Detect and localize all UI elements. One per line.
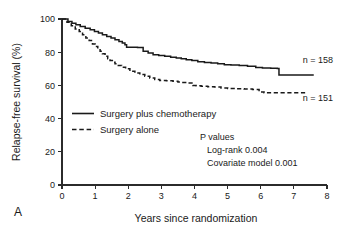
x-axis-ticks: 012345678 — [59, 185, 329, 201]
x-tick-label-6: 6 — [258, 191, 263, 201]
p-value-log-rank: Log-rank 0.004 — [207, 145, 268, 155]
sample-size-annotations: n = 158 n = 151 — [303, 55, 333, 103]
legend-label-surgery-alone: Surgery alone — [100, 124, 159, 135]
x-tick-label-1: 1 — [93, 191, 98, 201]
curve-surgery-alone — [62, 19, 307, 93]
p-values-annotation: P values Log-rank 0.004 Covariate model … — [200, 132, 298, 168]
legend-label-surgery-plus-chemotherapy: Surgery plus chemotherapy — [100, 108, 216, 119]
panel-label: A — [14, 205, 22, 219]
p-value-covariate-model: Covariate model 0.001 — [207, 158, 298, 168]
x-tick-label-5: 5 — [225, 191, 230, 201]
x-axis-title: Years since randomization — [135, 212, 258, 224]
x-tick-label-7: 7 — [291, 191, 296, 201]
y-tick-label-40: 40 — [45, 114, 55, 124]
y-tick-label-100: 100 — [40, 14, 55, 24]
kaplan-meier-figure: 020406080100 012345678 Relapse-free surv… — [0, 0, 344, 231]
survival-curves — [62, 19, 314, 93]
y-tick-label-60: 60 — [45, 81, 55, 91]
x-tick-label-3: 3 — [159, 191, 164, 201]
y-tick-label-20: 20 — [45, 147, 55, 157]
y-tick-label-0: 0 — [50, 180, 55, 190]
n-label-surgery-plus-chemotherapy: n = 158 — [303, 55, 333, 65]
relapse-free-survival-chart: 020406080100 012345678 Relapse-free surv… — [0, 0, 344, 231]
x-tick-label-0: 0 — [59, 191, 64, 201]
chart-legend: Surgery plus chemotherapy Surgery alone — [72, 108, 216, 135]
y-tick-label-80: 80 — [45, 48, 55, 58]
p-values-heading: P values — [200, 132, 235, 142]
x-tick-label-8: 8 — [324, 191, 329, 201]
x-tick-label-2: 2 — [126, 191, 131, 201]
n-label-surgery-alone: n = 151 — [303, 93, 333, 103]
y-axis-title: Relapse-free survival (%) — [10, 43, 22, 161]
y-axis-ticks: 020406080100 — [40, 14, 62, 190]
x-tick-label-4: 4 — [192, 191, 197, 201]
curve-surgery-plus-chemotherapy — [62, 19, 314, 75]
